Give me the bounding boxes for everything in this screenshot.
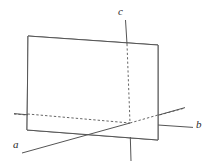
figure-container: a b c [0,0,218,168]
axis-b-left-stub [14,114,28,115]
axis-label-a: a [13,138,19,150]
axis-c-visible-top-segment [126,20,128,44]
axis-a-upper-right-segment [158,108,185,116]
axis-label-b: b [196,118,202,130]
axes-plane-diagram: a b c [0,0,218,168]
axis-label-c: c [118,5,123,17]
axis-c-visible-bottom-segment [130,137,131,161]
axis-b-visible-segment [158,125,193,127]
plane-fill-mask [27,36,158,140]
